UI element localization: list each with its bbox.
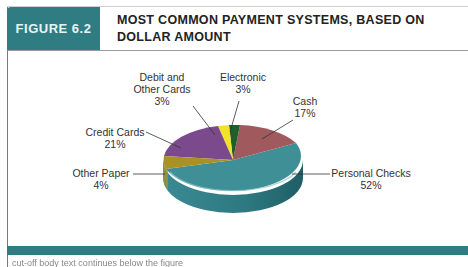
label-debit-pct: 3%	[154, 95, 169, 107]
label-debit-line2: Other Cards	[133, 83, 190, 95]
figure-bottom-bar	[7, 246, 468, 255]
cut-off-body-text: cut-off body text continues below the fi…	[12, 258, 468, 267]
figure-title-line-2: DOLLAR AMOUNT	[117, 29, 447, 46]
label-debit-line1: Debit and	[140, 71, 185, 83]
figure-title-line-1: MOST COMMON PAYMENT SYSTEMS, BASED ON	[117, 12, 447, 29]
pie-chart: Debit and Other Cards 3% Electronic 3% C…	[0, 51, 468, 246]
label-electronic-pct: 3%	[235, 83, 250, 95]
label-personal-checks: Personal Checks	[331, 167, 410, 179]
figure-title: MOST COMMON PAYMENT SYSTEMS, BASED ON DO…	[117, 12, 447, 46]
figure-number: FIGURE 6.2	[16, 21, 92, 36]
label-cash: Cash	[293, 95, 318, 107]
label-credit: Credit Cards	[86, 126, 145, 138]
pie-slices	[164, 125, 301, 191]
label-personal-checks-pct: 52%	[360, 179, 381, 191]
figure-number-badge: FIGURE 6.2	[7, 7, 100, 50]
label-other-paper: Other Paper	[72, 167, 130, 179]
label-cash-pct: 17%	[294, 107, 315, 119]
label-credit-pct: 21%	[104, 138, 125, 150]
label-electronic: Electronic	[220, 71, 266, 83]
label-other-paper-pct: 4%	[93, 179, 108, 191]
